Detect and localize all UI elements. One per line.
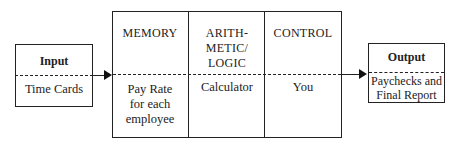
output-title: Output	[368, 50, 445, 65]
input-to-cpu-arrow-icon	[104, 70, 112, 80]
alu-content: Calculator	[189, 80, 265, 95]
control-title: CONTROL	[265, 26, 341, 41]
cpu-dashed-line	[113, 74, 341, 75]
cpu-to-output-arrow-line	[342, 74, 360, 75]
memory-content-line-1: Pay Rate	[112, 82, 188, 97]
memory-content-line-3: employee	[112, 112, 188, 127]
input-content: Time Cards	[15, 82, 93, 97]
output-content-line-1: Paychecks and	[368, 74, 445, 89]
output-content-line-2: Final Report	[368, 88, 445, 103]
output-divider	[369, 72, 444, 73]
alu-title-line-2: METIC/	[189, 41, 265, 56]
input-title: Input	[15, 54, 93, 69]
alu-title-line-3: LOGIC	[189, 56, 265, 71]
control-content: You	[265, 80, 341, 95]
memory-content-line-2: for each	[112, 97, 188, 112]
alu-title-line-1: ARITH-	[189, 26, 265, 41]
input-divider	[15, 75, 93, 76]
cpu-to-output-arrow-icon	[359, 69, 367, 79]
memory-title: MEMORY	[112, 26, 188, 41]
